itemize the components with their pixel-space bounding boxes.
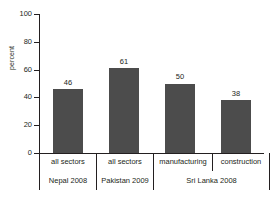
y-tick-mark-60 bbox=[34, 70, 39, 71]
category-table: all sectors all sectors manufacturing co… bbox=[39, 153, 270, 190]
bar-value-label-1: 61 bbox=[120, 58, 128, 66]
y-tick-label-80: 80 bbox=[2, 38, 32, 46]
bar-slot-2: 50 bbox=[152, 14, 208, 153]
bar-slot-1: 61 bbox=[96, 14, 152, 153]
y-tick-mark-20 bbox=[34, 125, 39, 126]
group-cell-nepal: Nepal 2008 bbox=[40, 171, 97, 190]
bar-value-label-2: 50 bbox=[176, 73, 184, 81]
bar-all-sectors-nepal bbox=[53, 89, 83, 153]
table-row-groups: Nepal 2008 Pakistan 2009 Sri Lanka 2008 bbox=[40, 171, 270, 190]
table-row-categories: all sectors all sectors manufacturing co… bbox=[40, 153, 270, 171]
y-tick-label-0: 0 bbox=[2, 149, 32, 157]
y-tick-label-100: 100 bbox=[2, 10, 32, 18]
category-cell-2: manufacturing bbox=[154, 153, 213, 171]
bar-value-label-0: 46 bbox=[64, 79, 72, 87]
y-tick-mark-80 bbox=[34, 42, 39, 43]
y-tick-label-60: 60 bbox=[2, 66, 32, 74]
category-cell-1: all sectors bbox=[97, 153, 154, 171]
plot-area: 46 61 50 38 bbox=[40, 14, 264, 153]
bar-manufacturing-srilanka bbox=[165, 84, 195, 154]
y-tick-mark-40 bbox=[34, 97, 39, 98]
group-cell-srilanka: Sri Lanka 2008 bbox=[154, 171, 270, 190]
bar-slot-3: 38 bbox=[208, 14, 264, 153]
group-cell-pakistan: Pakistan 2009 bbox=[97, 171, 154, 190]
bar-chart-figure: percent 100 80 60 40 20 0 46 61 50 38 bbox=[0, 0, 272, 197]
bar-construction-srilanka bbox=[221, 100, 251, 153]
bar-slot-0: 46 bbox=[40, 14, 96, 153]
y-tick-mark-100 bbox=[34, 14, 39, 15]
bar-value-label-3: 38 bbox=[232, 90, 240, 98]
y-tick-label-20: 20 bbox=[2, 121, 32, 129]
category-cell-3: construction bbox=[213, 153, 270, 171]
bar-all-sectors-pakistan bbox=[109, 68, 139, 153]
y-tick-label-40: 40 bbox=[2, 93, 32, 101]
category-cell-0: all sectors bbox=[40, 153, 97, 171]
